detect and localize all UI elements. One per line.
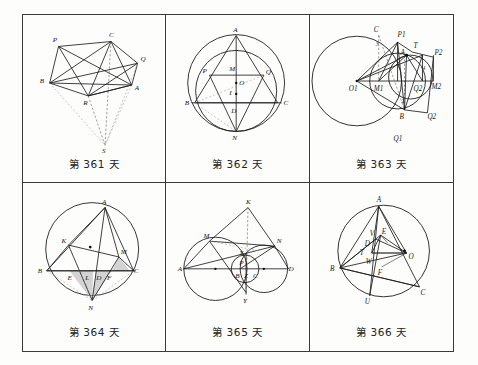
figure-365: K M N X P A B Z C D Y (166, 183, 308, 325)
point-label-A: A (177, 265, 183, 273)
point-label-Q2b: Q2 (427, 113, 436, 121)
point-label-D: D (288, 265, 295, 273)
point-label-K: K (245, 198, 252, 206)
panel-caption-364: 第 364 天 (23, 324, 165, 339)
angle-mark-3: 3 (374, 41, 378, 47)
point-label-B: B (399, 113, 404, 121)
point-label-A: A (399, 49, 405, 57)
point-label-A: A (134, 84, 140, 92)
figure-366: A V E D T O B W F U C (310, 183, 453, 325)
point-label-L: L (84, 274, 89, 282)
point-label-Z: Z (244, 272, 249, 280)
point-label-I: I (229, 89, 233, 97)
point-label-U: U (364, 298, 370, 306)
point-label-C: C (284, 99, 289, 107)
figure-362: A P M Q O B I C D N (166, 15, 308, 157)
point-label-N: N (276, 237, 283, 245)
point-label-X: X (238, 249, 244, 257)
panel-grid: P C Q B A R S 第 361 天 (22, 14, 454, 352)
angle-mark-2: 2 (401, 98, 404, 104)
panel-362: A P M Q O B I C D N 第 362 天 (166, 15, 309, 183)
point-label-C: C (373, 26, 378, 34)
point-label-D: D (363, 240, 370, 248)
point-label-B: B (40, 77, 45, 85)
point-label-K: K (61, 237, 68, 245)
figure-361: P C Q B A R S (23, 15, 165, 157)
panel-caption-366: 第 366 天 (310, 324, 453, 339)
point-label-C: C (253, 272, 258, 280)
point-label-P: P (202, 67, 208, 75)
point-label-N: N (232, 134, 239, 142)
point-label-M2: M2 (430, 83, 441, 91)
point-label-E: E (66, 274, 72, 282)
point-label-O1: O1 (348, 85, 357, 93)
point-label-A: A (233, 26, 239, 34)
point-label-B: B (236, 272, 241, 280)
point-label-F: F (376, 269, 382, 277)
point-label-T: T (359, 249, 364, 257)
point-label-Q: Q (141, 55, 146, 63)
point-label-Q1: Q1 (393, 135, 402, 143)
point-label-C: C (134, 267, 139, 275)
point-label-C: C (420, 289, 425, 297)
point-label-M: M (203, 232, 211, 240)
point-label-P: P (52, 36, 58, 44)
panel-caption-365: 第 365 天 (166, 324, 308, 339)
figure-364: A K M B E L D F C N (23, 183, 165, 325)
panel-366: A V E D T O B W F U C 第 366 天 (310, 183, 453, 351)
point-label-B: B (185, 99, 190, 107)
point-label-C: C (109, 31, 114, 39)
point-label-D: D (231, 107, 238, 115)
panel-364: A K M B E L D F C N 第 364 天 (23, 183, 166, 351)
point-label-Q2: Q2 (413, 85, 422, 93)
angle-mark-1: 1 (397, 63, 400, 69)
panel-caption-361: 第 361 天 (23, 156, 165, 171)
point-label-W: W (365, 258, 372, 266)
point-label-P1: P1 (396, 31, 405, 39)
point-label-P2: P2 (433, 49, 442, 57)
point-label-F: F (106, 274, 112, 282)
point-label-A: A (101, 198, 107, 206)
panel-caption-362: 第 362 天 (166, 156, 308, 171)
point-label-Y: Y (243, 297, 248, 305)
point-label-M: M (229, 65, 237, 73)
point-label-S: S (102, 147, 106, 155)
figure-363: C P1 T A P2 O1 M1 Q2 M2 B Q1 Q2 3 1 4 2 (310, 15, 453, 157)
point-label-O: O (239, 79, 244, 87)
point-label-N: N (87, 304, 94, 312)
angle-mark-4: 4 (422, 65, 425, 71)
point-label-D: D (95, 274, 102, 282)
panel-caption-363: 第 363 天 (310, 156, 453, 171)
point-label-A: A (375, 196, 381, 204)
panel-361: P C Q B A R S 第 361 天 (23, 15, 166, 183)
point-label-M1: M1 (372, 85, 383, 93)
point-label-Q: Q (266, 68, 271, 76)
point-label-E: E (380, 228, 386, 236)
point-label-B: B (330, 265, 335, 273)
point-label-M: M (120, 248, 128, 256)
panel-365: K M N X P A B Z C D Y 第 365 天 (166, 183, 309, 351)
panel-363: C P1 T A P2 O1 M1 Q2 M2 B Q1 Q2 3 1 4 2 (310, 15, 453, 183)
point-label-R: R (82, 99, 88, 107)
point-label-B: B (38, 267, 43, 275)
point-label-T: T (413, 42, 418, 50)
figure-sheet: P C Q B A R S 第 361 天 (0, 0, 478, 365)
point-label-O: O (408, 253, 413, 261)
point-label-P: P (238, 259, 244, 267)
